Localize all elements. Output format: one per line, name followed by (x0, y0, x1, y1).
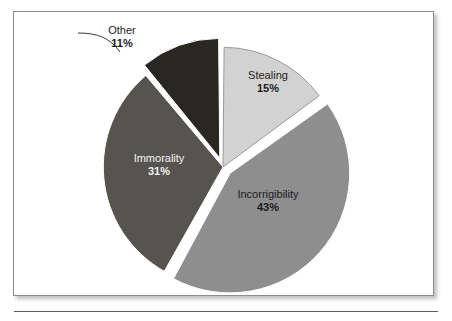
figure-root: Stealing 15% Incorrigibility 43% Immoral… (0, 0, 452, 321)
slice-label-other-value: 11% (89, 37, 155, 50)
bottom-divider (14, 311, 438, 312)
slice-label-incorrigibility-value: 43% (210, 201, 326, 214)
slice-label-other: Other 11% (89, 24, 155, 51)
slice-label-incorrigibility-name: Incorrigibility (210, 188, 326, 201)
slice-label-stealing-value: 15% (225, 82, 311, 95)
slice-label-incorrigibility: Incorrigibility 43% (210, 188, 326, 215)
slice-label-immorality-value: 31% (109, 165, 209, 178)
slice-label-stealing: Stealing 15% (225, 69, 311, 96)
pie-chart-svg (14, 12, 435, 297)
figure-box: Stealing 15% Incorrigibility 43% Immoral… (13, 11, 434, 296)
slice-label-other-name: Other (89, 24, 155, 37)
slice-label-stealing-name: Stealing (225, 69, 311, 82)
slice-label-immorality-name: Immorality (109, 152, 209, 165)
pie-chart: Stealing 15% Incorrigibility 43% Immoral… (14, 12, 435, 297)
slice-label-immorality: Immorality 31% (109, 152, 209, 179)
